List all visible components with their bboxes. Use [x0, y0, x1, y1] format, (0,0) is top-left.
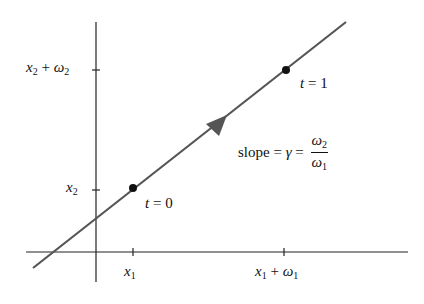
- direction-arrow-icon: [206, 115, 227, 136]
- slope-label: slope = γ = ω2 ω1: [238, 133, 328, 172]
- y-label-x2-plus-w2: x2 + ω2: [26, 60, 69, 77]
- x-label-x1-plus-w1: x1 + ω1: [255, 264, 298, 281]
- label-sub: 1: [293, 270, 298, 281]
- label-var: x: [124, 263, 131, 279]
- label-var: x: [66, 179, 73, 195]
- label-var: ω: [312, 154, 323, 170]
- label-var: ω: [54, 59, 65, 75]
- diagram-canvas: [0, 0, 424, 304]
- point-label-t1: t = 1: [300, 76, 328, 91]
- label-var: ω: [312, 132, 323, 148]
- label-sub: 1: [262, 270, 267, 281]
- slope-fraction: ω2 ω1: [311, 133, 329, 172]
- point-t0: [129, 184, 137, 192]
- label-var: ω: [283, 263, 294, 279]
- slope-denominator: ω1: [311, 153, 329, 172]
- label-op: +: [270, 263, 278, 279]
- point-label-t0: t = 0: [145, 196, 173, 211]
- label-op: +: [41, 59, 49, 75]
- y-label-x2: x2: [66, 180, 78, 197]
- label-sub: 2: [64, 66, 69, 77]
- label-sub: 2: [33, 66, 38, 77]
- slope-eq: =: [292, 144, 308, 160]
- label-sub: 2: [322, 139, 327, 150]
- label-sub: 2: [73, 186, 78, 197]
- label-var: x: [26, 59, 33, 75]
- label-eq: = 1: [304, 75, 327, 91]
- x-label-x1: x1: [124, 264, 136, 281]
- label-var: x: [255, 263, 262, 279]
- label-eq: = 0: [149, 195, 172, 211]
- point-t1: [282, 66, 290, 74]
- label-sub: 1: [322, 161, 327, 172]
- slope-prefix: slope =: [238, 144, 286, 160]
- label-sub: 1: [131, 270, 136, 281]
- slope-numerator: ω2: [311, 133, 329, 153]
